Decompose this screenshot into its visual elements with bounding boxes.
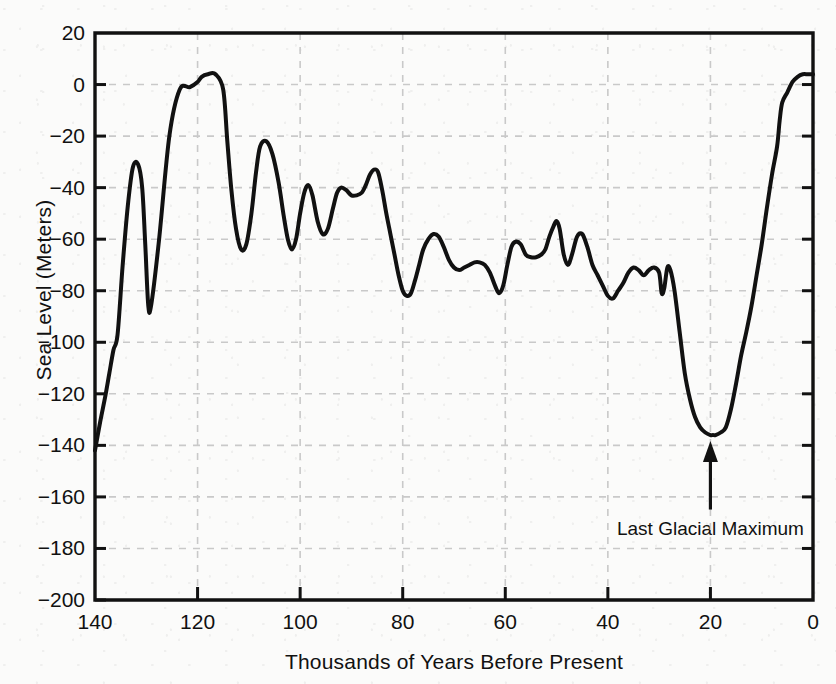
gridlines bbox=[95, 33, 813, 600]
sea-level-line bbox=[95, 73, 813, 451]
annotation-arrow bbox=[703, 441, 718, 509]
axis-frame bbox=[95, 33, 813, 600]
sea-level-chart-figure: Sea Level (Meters) Thousands of Years Be… bbox=[0, 0, 836, 684]
axis-ticks bbox=[95, 85, 813, 600]
plot-area bbox=[0, 0, 836, 684]
